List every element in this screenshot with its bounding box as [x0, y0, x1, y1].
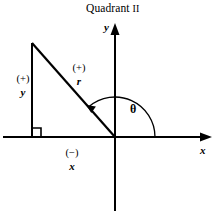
theta-arc-arrowhead-icon	[86, 105, 96, 113]
figure-title-numeral: II	[133, 3, 140, 14]
theta-angle-label: θ	[130, 103, 136, 115]
hypotenuse-sign: (+)	[62, 62, 96, 73]
figure-title-text: Quadrant	[86, 2, 130, 14]
horizontal-leg-variable: x	[55, 160, 89, 172]
y-axis-label: y	[104, 22, 109, 33]
horizontal-leg-label: (−) x	[55, 147, 89, 172]
horizontal-leg-sign: (−)	[55, 147, 89, 158]
triangle-hypotenuse-r	[32, 43, 115, 137]
vertical-leg-label: (+) y	[6, 73, 40, 98]
figure-title: Quadrant II	[86, 3, 139, 15]
quadrant-ii-diagram: Quadrant II y x (+) y (+) r (−) x θ	[0, 0, 217, 216]
hypotenuse-variable: r	[62, 75, 96, 87]
x-axis-label: x	[200, 145, 206, 156]
right-angle-marker-icon	[32, 128, 41, 137]
vertical-leg-sign: (+)	[6, 73, 40, 84]
hypotenuse-label: (+) r	[62, 62, 96, 87]
x-axis-arrowhead-icon	[200, 133, 212, 142]
y-axis-arrowhead-icon	[111, 23, 120, 35]
vertical-leg-variable: y	[6, 86, 40, 98]
